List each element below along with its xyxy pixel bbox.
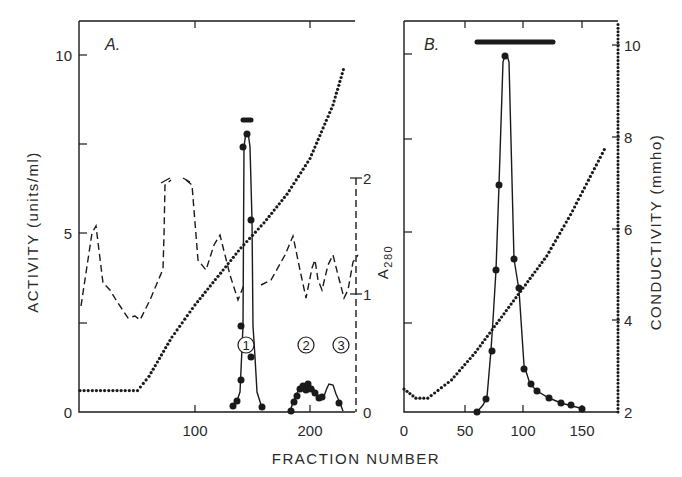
- b-right-tick-6: 6: [624, 221, 632, 238]
- a-right-tick-1: 1: [363, 286, 371, 303]
- y-right-title: CONDUCTIVITY (mmho): [647, 134, 664, 331]
- panel-b-label: B.: [424, 36, 439, 53]
- panel-a: 0 5 10 100 200 A. 2 1 0: [55, 21, 371, 439]
- b-x-tick-150: 150: [569, 422, 594, 439]
- a280-title: A280: [374, 245, 394, 279]
- a-x-tick-200: 200: [297, 422, 322, 439]
- b-a280-peak: [477, 55, 584, 412]
- x-axis-title: FRACTION NUMBER: [272, 450, 440, 467]
- a-right-tick-0: 0: [363, 404, 371, 421]
- b-conductivity-dots: [402, 148, 606, 400]
- b-right-tick-10: 10: [624, 37, 641, 54]
- b-right-tick-4: 4: [624, 312, 632, 329]
- panel-a-label: A.: [104, 36, 120, 53]
- a-left-tick-5: 5: [64, 225, 72, 242]
- b-right-tick-2: 2: [624, 404, 632, 421]
- panel-a-axes: [79, 21, 355, 412]
- y-left-title: ACTIVITY (units/ml): [24, 151, 41, 313]
- b-x-tick-0: 0: [400, 422, 408, 439]
- peak-2-label: 2: [302, 338, 309, 353]
- a-right-tick-2: 2: [363, 170, 371, 187]
- b-conductivity-axis-dots: [617, 23, 620, 413]
- a-left-tick-0: 0: [64, 404, 72, 421]
- a-a280-curve: [81, 180, 358, 320]
- b-x-tick-100: 100: [510, 422, 535, 439]
- peak-1-label: 1: [242, 338, 249, 353]
- a-activity-peak-1: [232, 132, 262, 408]
- b-right-tick-8: 8: [624, 129, 632, 146]
- svg-text:A280: A280: [374, 245, 394, 279]
- panel-b-axes: [404, 21, 618, 412]
- chromatography-figure: 0 5 10 100 200 A. 2 1 0: [0, 0, 682, 477]
- panel-b: 0 50 100 150 B. 10 8 6 4 2: [400, 21, 641, 439]
- a-x-tick-100: 100: [182, 422, 207, 439]
- a-left-tick-10: 10: [55, 47, 72, 64]
- peak-3-label: 3: [337, 338, 344, 353]
- b-x-tick-50: 50: [457, 422, 474, 439]
